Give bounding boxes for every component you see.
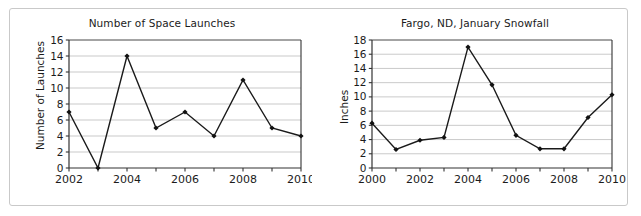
x-tick-label: 2006 — [502, 173, 530, 186]
x-tick-label: 2002 — [406, 173, 434, 186]
chart-space-launches: Number of Space Launches Number of Launc… — [12, 8, 312, 204]
data-point-marker — [66, 109, 71, 114]
data-point-marker — [298, 133, 303, 138]
y-tick-label: 12 — [353, 76, 366, 88]
x-tick-label: 2004 — [454, 173, 482, 186]
x-tick-label: 2006 — [171, 173, 199, 186]
x-tick-label: 2000 — [358, 173, 386, 186]
y-tick-label: 0 — [360, 162, 367, 174]
data-series-line — [372, 47, 612, 149]
x-tick-label: 2010 — [287, 173, 312, 186]
data-point-marker — [124, 53, 129, 58]
y-tick-label: 6 — [57, 114, 64, 126]
y-tick-label: 2 — [57, 146, 64, 158]
y-tick-label: 4 — [360, 133, 367, 145]
y-tick-label: 4 — [57, 130, 64, 142]
data-point-marker — [417, 138, 422, 143]
y-tick-label: 10 — [50, 82, 63, 94]
x-tick-label: 2008 — [550, 173, 578, 186]
y-tick-label: 14 — [353, 62, 367, 74]
data-point-marker — [95, 165, 100, 170]
y-tick-label: 8 — [360, 105, 367, 117]
y-tick-label: 18 — [353, 34, 366, 46]
y-tick-label: 0 — [57, 162, 64, 174]
y-tick-label: 16 — [50, 34, 64, 46]
figure-container: Number of Space Launches Number of Launc… — [0, 0, 641, 216]
y-tick-label: 14 — [50, 50, 64, 62]
x-tick-label: 2008 — [229, 173, 257, 186]
y-tick-label: 16 — [353, 48, 367, 60]
plot-area-fargo-snowfall: 024681012141618200020022004200620082010 — [322, 8, 628, 204]
y-tick-label: 6 — [360, 119, 367, 131]
y-tick-label: 2 — [360, 147, 367, 159]
x-tick-label: 2010 — [598, 173, 626, 186]
y-tick-label: 12 — [50, 66, 63, 78]
plot-area-space-launches: 024681012141620022004200620082010 — [12, 8, 312, 204]
x-tick-label: 2004 — [113, 173, 141, 186]
x-tick-label: 2002 — [55, 173, 83, 186]
data-point-marker — [153, 125, 158, 130]
y-tick-label: 8 — [57, 98, 64, 110]
y-tick-label: 10 — [353, 90, 366, 102]
chart-fargo-snowfall: Fargo, ND, January Snowfall Inches 02468… — [322, 8, 628, 204]
